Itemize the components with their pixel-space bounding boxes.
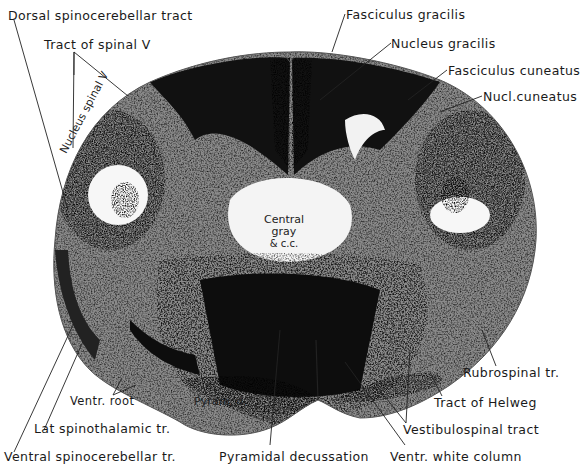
label-tract-of-helweg: Tract of Helweg <box>434 396 537 410</box>
label-nucleus-gracilis: Nucleus gracilis <box>391 37 496 51</box>
label-pyramidal-decussation: Pyramidal decussation <box>219 450 369 464</box>
label-tract-of-spinal-v: Tract of spinal V <box>44 38 151 52</box>
label-ventral-spinocerebellar-tract: Ventral spinocerebellar tr. <box>4 450 176 464</box>
label-vestibulospinal-tract: Vestibulospinal tract <box>403 423 539 437</box>
label-fasciculus-gracilis: Fasciculus gracilis <box>346 8 465 22</box>
label-ventr-root: Ventr. root <box>70 394 134 408</box>
label-ventr-white-column: Ventr. white column <box>390 450 522 464</box>
label-fasciculus-cuneatus: Fasciculus cuneatus <box>448 64 580 78</box>
label-pyramid: Pyram. d. <box>194 396 247 408</box>
label-lat-spinothalamic-tract: Lat spinothalamic tr. <box>34 422 170 436</box>
label-dorsal-spinocerebellar-tract: Dorsal spinocerebellar tract <box>8 9 193 23</box>
label-rubrospinal-tract: Rubrospinal tr. <box>463 366 559 380</box>
label-central-gray-line3: & c.c. <box>262 238 306 250</box>
label-nucl-cuneatus: Nucl.cuneatus <box>483 90 577 104</box>
label-central-gray: Central gray & c.c. <box>262 214 306 250</box>
label-central-gray-line2: gray <box>262 226 306 238</box>
